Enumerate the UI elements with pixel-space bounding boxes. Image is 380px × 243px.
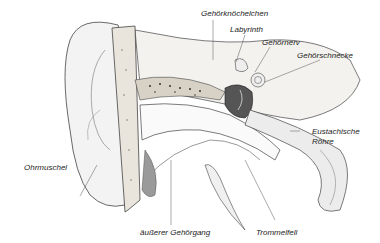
eustachian-tube	[245, 110, 348, 211]
label-labyrinth: Labyrinth	[230, 25, 263, 34]
label-eustachische: Eustachische	[312, 127, 360, 136]
label-gehoerschnecke: Gehörschnecke	[297, 51, 353, 60]
middle-ear	[225, 85, 253, 118]
cochlea	[251, 73, 265, 87]
ear-anatomy-diagram: Gehörknöchelchen Labyrinth Gehörnerv Geh…	[0, 0, 380, 243]
label-roehre: Röhre	[312, 137, 334, 146]
label-trommelfell: Trommelfell	[256, 228, 297, 237]
ear-illustration	[0, 0, 380, 243]
label-aeusserer-gehoergang: äußerer Gehörgang	[140, 228, 210, 237]
label-gehoernerv: Gehörnerv	[262, 38, 300, 47]
label-gehoerknoechelchen: Gehörknöchelchen	[201, 9, 268, 18]
label-ohrmuschel: Ohrmuschel	[24, 163, 67, 172]
